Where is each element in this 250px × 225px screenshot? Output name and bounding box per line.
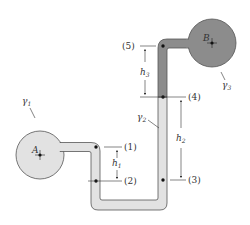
dimension-lines (117, 50, 181, 178)
h1-label: h1 (112, 158, 122, 169)
point-dots (94, 44, 164, 182)
manometer-diagram: A B h1 h2 h3 (1) (2) (3) (4) (5) γ1 (0, 0, 250, 225)
center-b-dot (210, 41, 213, 44)
tube-dark (158, 39, 192, 97)
gamma1-leader (30, 108, 35, 118)
point-3-label: (3) (188, 175, 201, 185)
point-2-label: (2) (124, 176, 137, 186)
center-a-dot (38, 153, 41, 156)
point-1-label: (1) (124, 142, 137, 152)
gamma1-label: γ1 (22, 96, 31, 107)
vessel-b-label: B (202, 33, 210, 43)
gamma3-leader (221, 72, 225, 80)
point-1-dot (94, 145, 97, 148)
light-fluid-region (16, 97, 167, 210)
gamma2-label: γ2 (137, 112, 146, 123)
gamma3-label: γ3 (222, 80, 231, 91)
point-3-dot (161, 178, 164, 181)
point-4-label: (4) (188, 92, 201, 102)
h2-label: h2 (176, 133, 186, 144)
tube-light (60, 97, 167, 210)
h3-label: h3 (140, 67, 150, 78)
point-5-dot (161, 44, 164, 47)
gamma2-leader (148, 120, 159, 128)
point-5-label: (5) (122, 41, 135, 51)
vessel-a-label: A (31, 145, 39, 155)
